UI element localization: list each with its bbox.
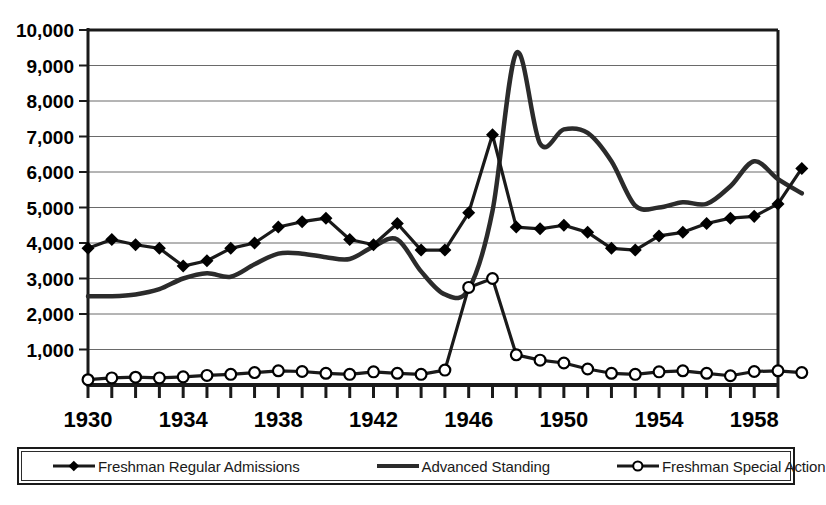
y-axis-tick-label: 10,000 bbox=[16, 20, 74, 41]
data-point-marker bbox=[511, 349, 522, 360]
data-point-marker bbox=[700, 217, 713, 230]
plain-line-icon bbox=[376, 458, 420, 474]
x-axis-tick-label: 1930 bbox=[64, 407, 113, 432]
chart-page: 1,0002,0003,0004,0005,0006,0007,0008,000… bbox=[0, 0, 826, 505]
x-axis-labels-group: 19301934193819421946195019541958 bbox=[64, 407, 779, 432]
data-point-marker bbox=[582, 364, 593, 375]
x-axis-tick-label: 1958 bbox=[730, 407, 779, 432]
y-axis-tick-label: 4,000 bbox=[26, 233, 74, 254]
legend-label-freshman-special-action: Freshman Special Action bbox=[662, 458, 826, 475]
data-point-marker bbox=[463, 282, 474, 293]
circle-marker-icon bbox=[616, 458, 660, 474]
data-point-marker bbox=[344, 369, 355, 380]
y-axis-tick-label: 5,000 bbox=[26, 198, 74, 219]
gridlines-group bbox=[88, 30, 778, 350]
x-axis-tick-label: 1954 bbox=[635, 407, 685, 432]
data-point-marker bbox=[487, 273, 498, 284]
data-point-marker bbox=[557, 219, 570, 232]
data-point-marker bbox=[796, 367, 807, 378]
y-axis-tick-label: 6,000 bbox=[26, 162, 74, 183]
diamond-marker-icon bbox=[52, 458, 96, 474]
data-point-marker bbox=[178, 371, 189, 382]
y-axis-tick-label: 2,000 bbox=[26, 304, 74, 325]
data-point-marker bbox=[392, 368, 403, 379]
data-point-marker bbox=[202, 370, 213, 381]
data-point-marker bbox=[486, 128, 499, 141]
legend-item-freshman-special-action[interactable]: Freshman Special Action bbox=[616, 458, 826, 475]
data-point-marker bbox=[296, 215, 309, 228]
legend-label-advanced-standing: Advanced Standing bbox=[422, 458, 550, 475]
data-point-marker bbox=[677, 365, 688, 376]
y-axis-tick-label: 9,000 bbox=[26, 56, 74, 77]
data-point-marker bbox=[129, 238, 142, 251]
x-axis-tick-label: 1946 bbox=[444, 407, 493, 432]
data-point-marker bbox=[654, 366, 665, 377]
data-point-marker bbox=[416, 369, 427, 380]
series-advanced-standing bbox=[88, 52, 802, 298]
x-axis-tick-label: 1942 bbox=[349, 407, 398, 432]
data-point-marker bbox=[224, 242, 237, 255]
series-freshman-regular-admissions bbox=[81, 128, 808, 272]
series-freshman-special-action bbox=[83, 273, 808, 385]
data-point-marker bbox=[558, 358, 569, 369]
y-axis-tick-label: 1,000 bbox=[26, 340, 74, 361]
data-point-marker bbox=[725, 370, 736, 381]
data-point-marker bbox=[321, 368, 332, 379]
data-point-marker bbox=[439, 365, 450, 376]
data-point-marker bbox=[83, 374, 94, 385]
chart-legend: Freshman Regular Admissions Advanced Sta… bbox=[17, 447, 795, 485]
data-point-marker bbox=[701, 368, 712, 379]
data-point-marker bbox=[249, 367, 260, 378]
x-axis-tick-label: 1938 bbox=[254, 407, 303, 432]
data-point-marker bbox=[273, 365, 284, 376]
chart-plot-area: 1,0002,0003,0004,0005,0006,0007,0008,000… bbox=[0, 0, 826, 440]
data-point-marker bbox=[630, 369, 641, 380]
data-point-marker bbox=[297, 366, 308, 377]
data-series-group bbox=[81, 52, 808, 385]
data-point-marker bbox=[510, 221, 523, 234]
legend-item-freshman-regular-admissions[interactable]: Freshman Regular Admissions bbox=[52, 458, 300, 475]
data-point-marker bbox=[368, 366, 379, 377]
data-point-marker bbox=[606, 368, 617, 379]
legend-label-freshman-regular-admissions: Freshman Regular Admissions bbox=[98, 458, 300, 475]
data-point-marker bbox=[749, 366, 760, 377]
legend-inner-border: Freshman Regular Admissions Advanced Sta… bbox=[21, 451, 791, 481]
data-point-marker bbox=[154, 373, 165, 384]
data-point-marker bbox=[130, 372, 141, 383]
x-axis-tick-label: 1950 bbox=[539, 407, 588, 432]
data-point-marker bbox=[724, 212, 737, 225]
data-point-marker bbox=[676, 226, 689, 239]
y-axis-tick-label: 3,000 bbox=[26, 269, 74, 290]
data-point-marker bbox=[535, 355, 546, 366]
y-axis-labels-group: 1,0002,0003,0004,0005,0006,0007,0008,000… bbox=[16, 20, 88, 361]
y-axis-tick-label: 8,000 bbox=[26, 91, 74, 112]
data-point-marker bbox=[105, 233, 118, 246]
x-axis-tick-label: 1934 bbox=[159, 407, 209, 432]
line-chart-svg: 1,0002,0003,0004,0005,0006,0007,0008,000… bbox=[0, 0, 826, 440]
series-line bbox=[88, 52, 802, 298]
data-point-marker bbox=[748, 210, 761, 223]
legend-item-advanced-standing[interactable]: Advanced Standing bbox=[376, 458, 550, 475]
data-point-marker bbox=[534, 222, 547, 235]
data-point-marker bbox=[106, 373, 117, 384]
data-point-marker bbox=[225, 369, 236, 380]
data-point-marker bbox=[200, 254, 213, 267]
y-axis-tick-label: 7,000 bbox=[26, 127, 74, 148]
data-point-marker bbox=[773, 365, 784, 376]
